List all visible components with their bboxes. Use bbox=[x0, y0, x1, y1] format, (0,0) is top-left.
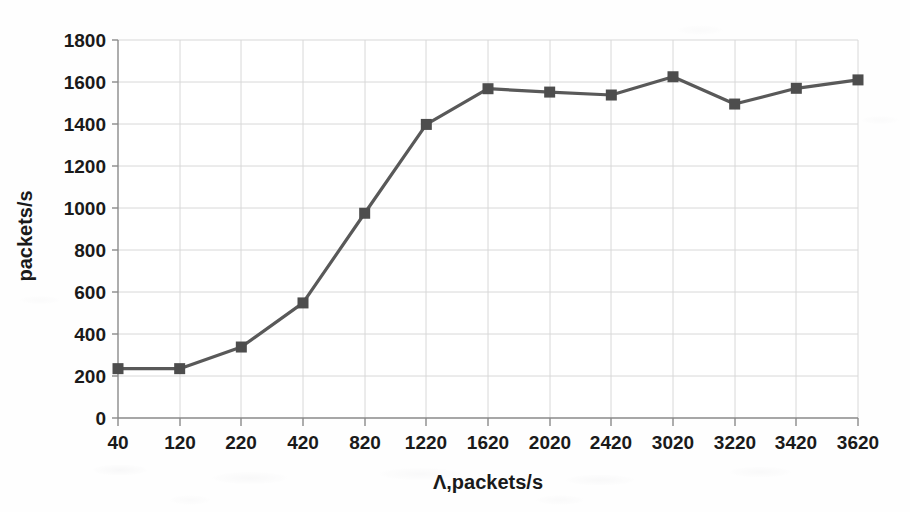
y-tick-label: 1400 bbox=[64, 114, 106, 135]
x-tick-label: 120 bbox=[164, 432, 196, 453]
y-axis-tick-labels: 0 200 400 600 800 1000 1200 1400 1600 18… bbox=[64, 30, 106, 429]
y-tick-label: 400 bbox=[74, 324, 106, 345]
y-axis-title: packets/s bbox=[14, 190, 36, 281]
data-point-marker bbox=[791, 83, 802, 94]
data-point-marker bbox=[729, 99, 740, 110]
y-axis-ticks bbox=[112, 40, 118, 418]
y-tick-label: 1600 bbox=[64, 72, 106, 93]
data-point-marker bbox=[174, 363, 185, 374]
data-point-marker bbox=[236, 342, 247, 353]
data-point-marker bbox=[483, 83, 494, 94]
x-tick-label: 1220 bbox=[405, 432, 447, 453]
x-tick-label: 420 bbox=[287, 432, 319, 453]
data-point-marker bbox=[113, 363, 124, 374]
y-tick-label: 600 bbox=[74, 282, 106, 303]
x-tick-label: 2020 bbox=[529, 432, 571, 453]
data-point-marker bbox=[668, 71, 679, 82]
y-tick-label: 200 bbox=[74, 366, 106, 387]
x-tick-label: 40 bbox=[107, 432, 128, 453]
x-tick-label: 3020 bbox=[652, 432, 694, 453]
chart-figure: 0 200 400 600 800 1000 1200 1400 1600 18… bbox=[0, 0, 910, 512]
data-point-marker bbox=[853, 74, 864, 85]
x-axis-title: Λ,packets/s bbox=[433, 471, 543, 493]
x-tick-label: 820 bbox=[349, 432, 381, 453]
x-tick-label: 1620 bbox=[467, 432, 509, 453]
data-point-marker bbox=[298, 297, 309, 308]
x-axis-tick-labels: 40 120 220 420 820 1220 1620 2020 2420 3… bbox=[107, 432, 879, 453]
x-tick-label: 3220 bbox=[714, 432, 756, 453]
data-point-marker bbox=[421, 119, 432, 130]
data-point-marker bbox=[544, 87, 555, 98]
line-chart: 0 200 400 600 800 1000 1200 1400 1600 18… bbox=[0, 0, 910, 512]
x-tick-label: 3420 bbox=[775, 432, 817, 453]
x-tick-label: 2420 bbox=[590, 432, 632, 453]
y-tick-label: 0 bbox=[95, 408, 106, 429]
x-tick-label: 3620 bbox=[837, 432, 879, 453]
x-tick-label: 220 bbox=[225, 432, 257, 453]
y-tick-label: 800 bbox=[74, 240, 106, 261]
x-axis-ticks bbox=[118, 418, 858, 426]
data-point-marker bbox=[606, 90, 617, 101]
y-tick-label: 1200 bbox=[64, 156, 106, 177]
y-tick-label: 1800 bbox=[64, 30, 106, 51]
y-tick-label: 1000 bbox=[64, 198, 106, 219]
data-point-marker bbox=[359, 208, 370, 219]
